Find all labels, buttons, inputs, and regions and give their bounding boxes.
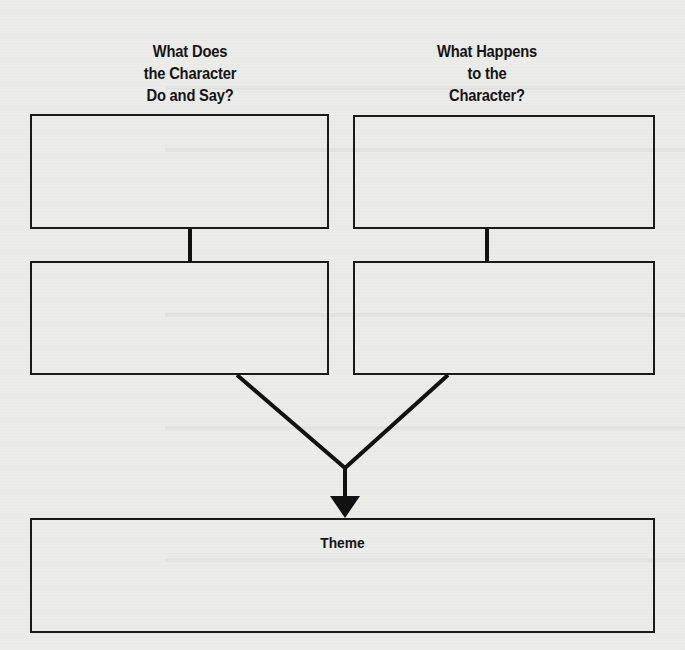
- right-diagonal-line: [345, 375, 448, 468]
- arrowhead-down-icon: [330, 496, 360, 518]
- theme-label: Theme: [57, 534, 628, 551]
- left-diagonal-line: [237, 375, 345, 468]
- theme-box[interactable]: Theme: [30, 518, 655, 633]
